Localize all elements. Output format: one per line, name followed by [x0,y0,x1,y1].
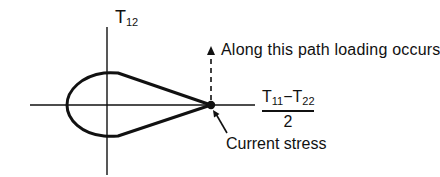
horizontal-axis-label-numerator: T11−T22 [262,89,314,109]
vertical-axis-label: T12 [115,8,138,28]
current-stress-point [207,101,215,109]
horizontal-axis-label-denominator: 2 [262,114,314,130]
current-stress-pointer-line [216,114,227,133]
fraction-bar [262,110,314,112]
current-stress-label: Current stress [226,136,326,152]
current-stress-pointer-arrowhead-icon [213,110,220,118]
loading-path-label: Along this path loading occurs [221,42,440,58]
loading-path-arrowhead-icon [207,46,215,55]
horizontal-axis-label: T11−T22 2 [262,89,314,130]
